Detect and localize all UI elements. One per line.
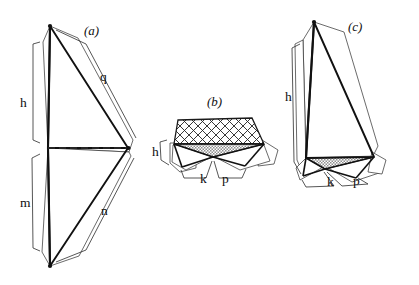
- figure-canvas: [0, 0, 419, 285]
- panel-b-crosshatch-face: [174, 118, 264, 144]
- panel-a-dimension-h: h: [20, 96, 27, 110]
- panel-b-bracket-h: [160, 140, 169, 165]
- panel-a-label: (a): [84, 24, 99, 37]
- panel-a-bracket-h: [33, 42, 40, 143]
- panel-a-dimension-n: n: [101, 204, 108, 218]
- panel-a-dimension-m: m: [20, 196, 31, 210]
- panel-b-dimension-h: h: [152, 145, 159, 159]
- panel-b-label: (b): [207, 95, 222, 108]
- panel-c-geometry: [292, 20, 386, 187]
- panel-a-dimension-q: q: [100, 70, 107, 84]
- panel-a-bottom-vertex: [48, 264, 52, 268]
- panel-a-right-vertex: [126, 146, 130, 150]
- panel-a-geometry: [32, 24, 136, 268]
- panel-c-apex-vertex: [312, 20, 316, 24]
- panel-b-dimension-p: p: [222, 172, 229, 186]
- panel-c-dimension-k: k: [327, 175, 334, 189]
- panel-c-dimension-h: h: [285, 90, 292, 104]
- panel-b-geometry: [160, 118, 278, 178]
- panel-c-dimension-p: p: [353, 174, 360, 188]
- panel-b-dimension-k: k: [200, 172, 207, 186]
- panel-a-bracket-m: [32, 154, 40, 251]
- geometry-figure: (a) h m q n (b) h k p (c) h k p: [0, 0, 419, 285]
- panel-c-upper-shell: [303, 22, 378, 158]
- panel-c-label: (c): [348, 20, 362, 33]
- panel-a-apex-vertex: [48, 24, 52, 28]
